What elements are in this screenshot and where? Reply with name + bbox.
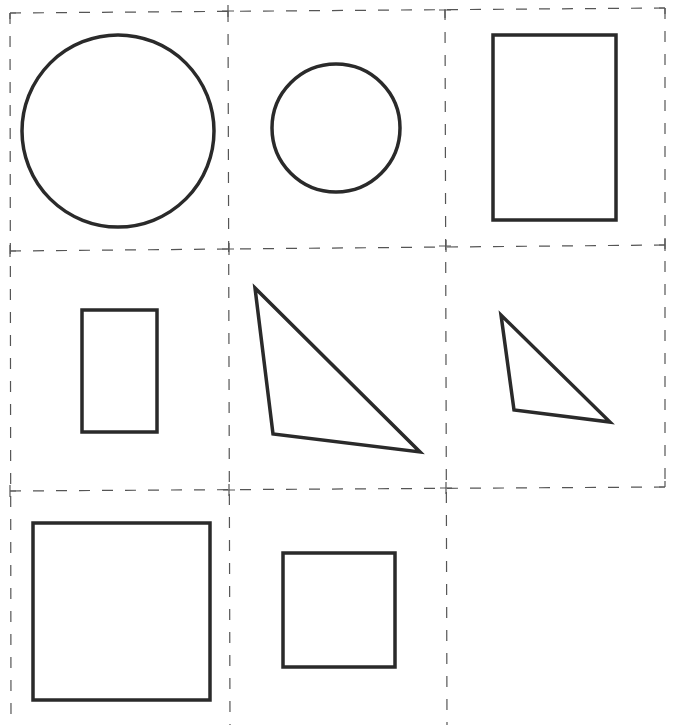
large-triangle-shape	[255, 288, 420, 452]
grid-intersection-ticks	[10, 5, 665, 497]
grid-row-divider-2	[10, 487, 665, 491]
large-rectangle-shape	[493, 35, 616, 220]
large-square-shape	[33, 523, 210, 700]
large-circle-shape	[22, 35, 214, 227]
small-triangle-shape	[501, 315, 610, 422]
shapes	[22, 35, 616, 700]
grid-row-divider-1	[10, 245, 665, 251]
small-square-shape	[283, 553, 395, 667]
small-rectangle-shape	[82, 310, 157, 432]
cut-line-grid	[10, 5, 665, 725]
grid-top-border	[10, 8, 665, 13]
grid-left-border	[10, 13, 11, 725]
small-circle-shape	[272, 64, 400, 192]
shapes-worksheet	[0, 0, 673, 725]
grid-col-divider-2	[445, 9, 447, 725]
grid-col-divider-1	[228, 11, 230, 725]
